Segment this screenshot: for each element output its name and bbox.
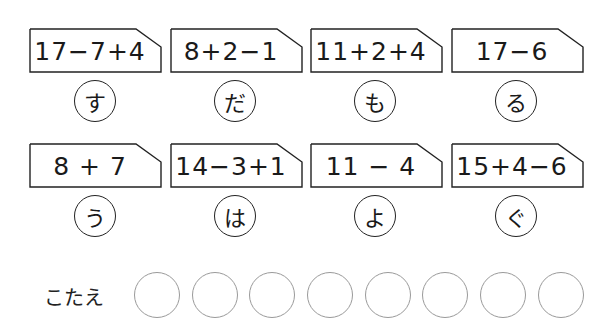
expression-text: 15+4−6 bbox=[451, 143, 573, 189]
expression-text: 17−7+4 bbox=[29, 28, 151, 74]
kana-circle: よ bbox=[354, 195, 396, 237]
kana-circle: す bbox=[74, 80, 116, 122]
answer-slot-7[interactable] bbox=[480, 272, 526, 318]
problem-card: 8 + 7 bbox=[29, 143, 163, 189]
answer-label: こたえ bbox=[44, 282, 104, 311]
expression-text: 8+2−1 bbox=[170, 28, 292, 74]
kana-circle: だ bbox=[214, 80, 256, 122]
problem-card: 11+2+4 bbox=[310, 28, 444, 74]
problem-card: 17−7+4 bbox=[29, 28, 163, 74]
problem-card: 14−3+1 bbox=[170, 143, 304, 189]
problem-card: 17−6 bbox=[451, 28, 585, 74]
expression-text: 17−6 bbox=[451, 28, 573, 74]
answer-slot-8[interactable] bbox=[538, 272, 584, 318]
kana-circle: ぐ bbox=[495, 195, 537, 237]
answer-slot-5[interactable] bbox=[365, 272, 411, 318]
kana-circle: る bbox=[495, 80, 537, 122]
expression-text: 11 − 4 bbox=[310, 143, 432, 189]
problem-card: 8+2−1 bbox=[170, 28, 304, 74]
problem-card: 15+4−6 bbox=[451, 143, 585, 189]
kana-circle: は bbox=[214, 195, 256, 237]
answer-slot-6[interactable] bbox=[422, 272, 468, 318]
answer-slot-4[interactable] bbox=[307, 272, 353, 318]
answer-slot-3[interactable] bbox=[249, 272, 295, 318]
answer-slot-1[interactable] bbox=[134, 272, 180, 318]
expression-text: 14−3+1 bbox=[170, 143, 292, 189]
expression-text: 8 + 7 bbox=[29, 143, 151, 189]
problem-card: 11 − 4 bbox=[310, 143, 444, 189]
kana-circle: も bbox=[354, 80, 396, 122]
kana-circle: う bbox=[74, 195, 116, 237]
answer-slot-2[interactable] bbox=[192, 272, 238, 318]
expression-text: 11+2+4 bbox=[310, 28, 432, 74]
